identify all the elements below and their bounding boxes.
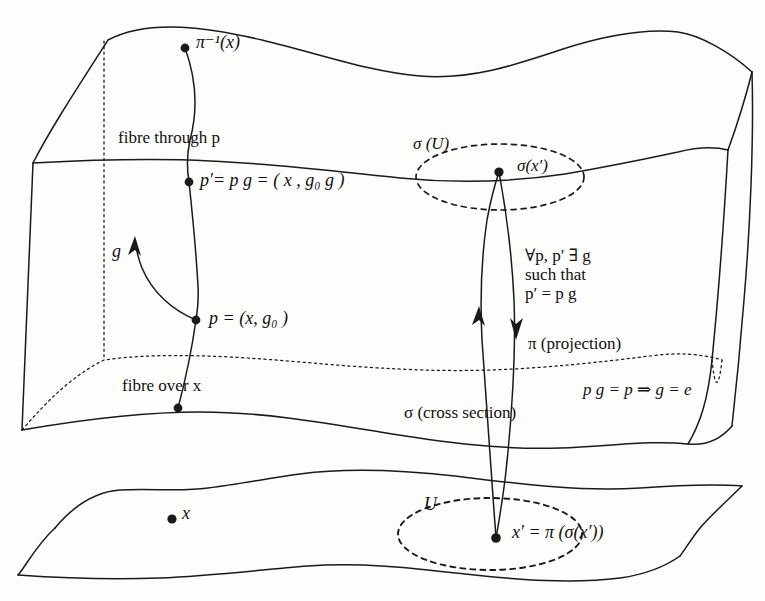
g-action-arc xyxy=(135,240,196,320)
total-space-right-edge xyxy=(732,72,753,426)
base-manifold-right-edge xyxy=(680,486,742,556)
label-free-action: p g = p ⇒ g = e xyxy=(583,380,691,400)
label-sigma-x-prime: σ(x′) xyxy=(517,156,548,176)
pi-arrowhead xyxy=(510,318,523,340)
total-space-right-inner-edge xyxy=(688,150,728,444)
label-x-prime-equation: x′ = π (σ(x′)) xyxy=(512,522,603,543)
fibre-bottom-point xyxy=(174,404,183,413)
x-prime-point xyxy=(491,533,501,543)
p-prime-point xyxy=(185,178,194,187)
figure-canvas: π⁻¹(x) fibre through p p′= p g = ( x , g… xyxy=(0,0,765,601)
total-space-top-near-edge xyxy=(33,148,728,182)
base-manifold-bottom-edge xyxy=(18,556,680,581)
base-manifold-left-edge xyxy=(18,528,55,575)
fibre-curve xyxy=(178,48,198,408)
g-action-arrowhead xyxy=(128,236,141,256)
base-manifold-top-edge xyxy=(55,470,742,528)
label-g-action: g xyxy=(112,241,121,262)
total-space-left-edge xyxy=(22,163,33,430)
label-exists-line1: ∀p, p′ ∃ g xyxy=(525,246,591,265)
sigma-x-prime-point xyxy=(494,167,503,176)
bundle-diagram-svg xyxy=(0,0,765,601)
label-pi-projection: π (projection) xyxy=(528,334,621,354)
p-point xyxy=(192,316,201,325)
sigma-section-line xyxy=(481,172,499,538)
label-U: U xyxy=(424,494,437,515)
label-exists-line2: such that xyxy=(525,265,591,284)
label-fibre-through-p: fibre through p xyxy=(118,128,220,148)
total-space-bottom-near-edge xyxy=(22,412,732,448)
total-space-top-right-join xyxy=(728,72,752,150)
label-fibre-over-x: fibre over x xyxy=(122,376,201,396)
label-exists-condition: ∀p, p′ ∃ g such that p′ = p g xyxy=(525,246,591,303)
label-exists-line3: p′ = p g xyxy=(525,284,591,303)
label-p-prime-equation: p′= p g = ( x , g₀ g ) xyxy=(200,170,344,191)
label-p-equation: p = (x, g₀ ) xyxy=(209,308,288,329)
total-space-bottom-far-right-hidden xyxy=(712,360,722,382)
pi-inverse-x-point xyxy=(181,44,190,53)
x-point xyxy=(167,514,176,523)
label-x: x xyxy=(182,503,190,524)
label-pi-inverse-x: π⁻¹(x) xyxy=(196,32,240,53)
label-sigma-cross-section: σ (cross section) xyxy=(404,403,516,423)
sigma-arrowhead xyxy=(472,306,485,326)
label-sigma-U: σ (U) xyxy=(413,134,449,154)
